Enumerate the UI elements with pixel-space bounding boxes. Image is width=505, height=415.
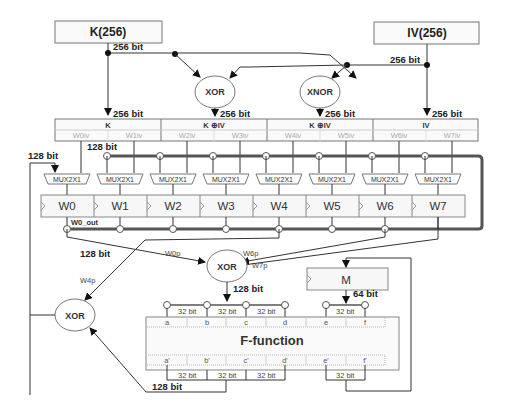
bit-label-64: 64 bit (353, 288, 379, 299)
group-title-kxoriv-1: K ⊕IV (203, 121, 225, 130)
bit-label-32-8: 32 bit (336, 371, 355, 380)
register-w2: W2 (164, 200, 181, 212)
group-title-kxoriv-2: K ⊕IV (309, 121, 331, 130)
w7p-label: W7p (252, 261, 267, 270)
register-w5: W5 (323, 200, 340, 212)
w6p-label: W6p (243, 249, 258, 258)
mux-7: MUX2X1 (424, 176, 452, 183)
sub-w4iv: W4iv (285, 131, 302, 140)
sub-w1iv: W1iv (126, 131, 143, 140)
register-row: W0 W1 W2 W3 W4 W5 W6 W7 (41, 195, 465, 217)
bit-label-32-6: 32 bit (218, 371, 237, 380)
mux-4: MUX2X1 (265, 176, 293, 183)
svg-text:M: M (341, 274, 351, 286)
bit-label-32-2: 32 bit (218, 307, 237, 316)
f-out-f: f' (363, 356, 367, 365)
mux-1: MUX2X1 (106, 176, 134, 183)
w0-out-label: W0_out (71, 218, 99, 227)
f-in-e: e (324, 318, 328, 327)
bit-label-128-w0: 128 bit (80, 248, 111, 259)
bit-label-128-left: 128 bit (28, 150, 59, 161)
f-function-box: a b c d e f F-function a' b' c' d' e' f' (146, 317, 399, 370)
feedback-bus (66, 156, 482, 229)
xor-gate-middle: XOR (207, 250, 247, 282)
svg-text:XOR: XOR (65, 311, 85, 321)
f-in-b: b (205, 318, 209, 327)
register-w6: W6 (376, 200, 393, 212)
bit-label-4: 256 bit (432, 108, 463, 119)
mux-row: MUX2X1 MUX2X1 MUX2X1 MUX2X1 MUX2X1 MUX2X… (44, 174, 461, 184)
bit-label-32-3: 32 bit (257, 307, 276, 316)
m-register: M (307, 268, 388, 290)
f-out-b: b' (204, 356, 210, 365)
f-out-d: d' (282, 356, 288, 365)
sub-w3iv: W3iv (232, 131, 249, 140)
sub-w6iv: W6iv (391, 131, 408, 140)
bit-label-k: 256 bit (113, 41, 144, 52)
bit-label-3: 256 bit (325, 108, 356, 119)
f-out-a: a' (164, 356, 170, 365)
f-out-e: e' (323, 356, 329, 365)
xor-gate-left: XOR (55, 299, 95, 331)
bit-label-128-bottom: 128 bit (152, 381, 183, 392)
mux-6: MUX2X1 (371, 176, 399, 183)
sub-w0iv: W0iv (73, 131, 90, 140)
init-vector-table: K K ⊕IV K ⊕IV IV W0iv W1iv W2iv W3iv W4i… (55, 119, 478, 141)
bit-label-2: 256 bit (220, 108, 251, 119)
iv-input-box: IV(256) (374, 22, 479, 44)
xnor-gate-top: XNOR (300, 76, 340, 108)
bit-label-iv: 256 bit (390, 54, 421, 65)
mux-3: MUX2X1 (212, 176, 240, 183)
f-function-title: F-function (240, 333, 304, 348)
sub-w2iv: W2iv (179, 131, 196, 140)
bit-label-32-4: 32 bit (336, 307, 355, 316)
key-label: K(256) (90, 25, 127, 39)
xor-gate-top: XOR (195, 76, 235, 108)
mux-0: MUX2X1 (53, 176, 81, 183)
f-in-c: c (244, 318, 248, 327)
bit-label-128-xor: 128 bit (233, 283, 264, 294)
bit-label-32-5: 32 bit (178, 371, 197, 380)
bit-label-128-init: 128 bit (87, 141, 118, 152)
register-w0: W0 (58, 200, 75, 212)
register-w7: W7 (429, 200, 446, 212)
register-w3: W3 (217, 200, 234, 212)
group-title-k: K (105, 121, 111, 130)
bit-label-32-1: 32 bit (178, 307, 197, 316)
iv-label: IV(256) (407, 26, 446, 40)
svg-text:XNOR: XNOR (307, 87, 334, 97)
sub-w5iv: W5iv (338, 131, 355, 140)
svg-text:XOR: XOR (217, 262, 237, 272)
w4p-label: W4p (80, 276, 95, 285)
register-w4: W4 (270, 200, 288, 212)
f-out-c: c' (243, 356, 249, 365)
group-title-iv: IV (422, 121, 429, 130)
key-input-box: K(256) (55, 21, 162, 43)
mux-2: MUX2X1 (159, 176, 187, 183)
bit-label-1: 256 bit (113, 108, 144, 119)
sub-w7iv: W7iv (444, 131, 461, 140)
register-w1: W1 (111, 200, 128, 212)
w0p-label: W0p (165, 249, 180, 258)
f-in-d: d (283, 318, 287, 327)
bit-label-32-7: 32 bit (257, 371, 276, 380)
stream-cipher-diagram: K(256) IV(256) 256 bit 256 bit XOR XNOR … (0, 0, 505, 415)
svg-text:XOR: XOR (205, 87, 225, 97)
mux-5: MUX2X1 (318, 176, 346, 183)
